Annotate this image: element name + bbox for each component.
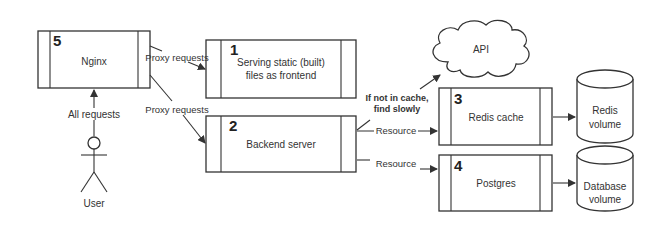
- backend-label: Backend server: [246, 139, 316, 150]
- redis-label: Redis cache: [468, 112, 523, 123]
- nginx-label: Nginx: [81, 56, 107, 67]
- api-cloud-node[interactable]: API: [433, 20, 529, 77]
- backend-node[interactable]: 2 Backend server: [206, 116, 356, 172]
- user-actor[interactable]: User: [81, 137, 107, 209]
- db-volume-label-line1: Database: [584, 181, 627, 192]
- redis-volume-label-line1: Redis: [592, 105, 618, 116]
- edge-label-proxy-backend: Proxy requests: [145, 104, 209, 115]
- db-volume-label-line2: volume: [589, 194, 622, 205]
- architecture-diagram: 5 Nginx 1 Serving static (built) files a…: [0, 0, 666, 234]
- frontend-label-line2: files as frontend: [246, 70, 317, 81]
- edge-user-to-nginx: All requests: [60, 90, 128, 136]
- edge-label-all-requests: All requests: [68, 109, 120, 120]
- edge-label-resource-postgres: Resource: [376, 158, 417, 169]
- edge-label-cache-miss-line1: If not in cache,: [365, 93, 428, 103]
- frontend-label-line1: Serving static (built): [237, 57, 325, 68]
- api-label: API: [473, 44, 489, 55]
- user-label: User: [83, 198, 105, 209]
- nginx-node[interactable]: 5 Nginx: [38, 31, 150, 88]
- edge-backend-to-api: If not in cache, find slowly: [357, 75, 440, 130]
- edge-backend-to-postgres: Resource: [357, 158, 437, 169]
- postgres-number: 4: [454, 157, 463, 174]
- edge-nginx-to-frontend: Proxy requests: [145, 46, 209, 69]
- edge-label-cache-miss-line2: find slowly: [374, 104, 421, 114]
- frontend-node[interactable]: 1 Serving static (built) files as fronte…: [206, 40, 356, 98]
- redis-number: 3: [454, 90, 462, 107]
- postgres-node[interactable]: 4 Postgres: [439, 155, 552, 211]
- database-volume-node[interactable]: Database volume: [577, 146, 633, 211]
- edge-nginx-to-backend: Proxy requests: [145, 75, 209, 143]
- postgres-label: Postgres: [476, 178, 515, 189]
- redis-volume-label-line2: volume: [589, 119, 622, 130]
- edge-label-proxy-frontend: Proxy requests: [145, 52, 209, 63]
- redis-volume-node[interactable]: Redis volume: [577, 70, 633, 143]
- redis-cache-node[interactable]: 3 Redis cache: [439, 88, 552, 145]
- edge-backend-to-redis: Resource: [357, 125, 437, 136]
- edge-label-resource-redis: Resource: [376, 125, 417, 136]
- nginx-number: 5: [53, 32, 61, 49]
- backend-number: 2: [229, 117, 237, 134]
- frontend-number: 1: [230, 41, 238, 58]
